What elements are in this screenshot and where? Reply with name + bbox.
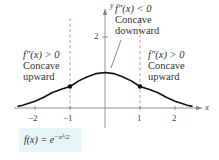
x-tick-2: 2 (172, 113, 177, 123)
annotation-pointer (111, 40, 121, 68)
label-middle-concave-down: f″(x) < 0 Concave downward (115, 3, 159, 36)
x-tick-1: 1 (137, 113, 142, 123)
y-axis-label: y (110, 1, 114, 10)
x-axis-label: x (205, 102, 209, 112)
y-tick-2: 2 (94, 31, 99, 41)
x-tick-neg1: −1 (63, 113, 73, 123)
label-right-concave-up: f″(x) > 0 Concave upward (148, 49, 185, 82)
x-axis-arrow-icon (196, 106, 203, 110)
inflection-point-right (138, 84, 142, 88)
inflection-point-left (68, 84, 72, 88)
x-tick-neg2: −2 (28, 113, 38, 123)
label-left-concave-up: f″(x) > 0 Concave upward (23, 49, 60, 82)
y-axis-arrow-icon (103, 8, 107, 15)
function-formula: f(x) = e−x²/2 (24, 133, 69, 145)
